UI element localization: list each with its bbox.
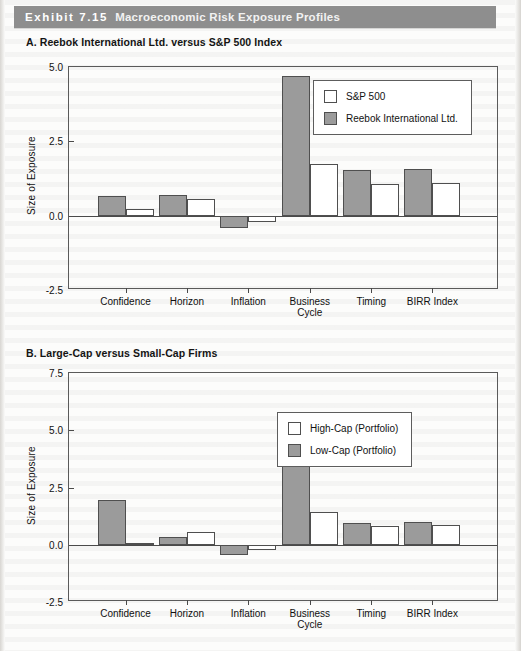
legend-label: High-Cap (Portfolio)	[310, 423, 398, 434]
x-axis-tick-label: Timing	[356, 608, 386, 619]
x-axis-tick-mark	[432, 288, 433, 293]
y-axis-tick-label: 5.0	[49, 425, 69, 436]
legend-item: S&P 500	[324, 88, 458, 105]
legend-swatch	[288, 422, 301, 435]
bar	[371, 184, 399, 216]
bar	[343, 170, 371, 215]
bar	[248, 545, 276, 551]
panel-b-legend: High-Cap (Portfolio)Low-Cap (Portfolio)	[277, 412, 412, 467]
bar	[432, 183, 460, 216]
x-axis-tick-mark	[310, 600, 311, 605]
legend-item: Reebok International Ltd.	[324, 110, 458, 127]
bar	[432, 525, 460, 544]
bar	[159, 537, 187, 545]
y-axis-tick-label: 5.0	[49, 62, 69, 73]
legend-swatch	[288, 444, 301, 457]
y-axis-tick-label: 0.0	[49, 539, 69, 550]
x-axis-tick-label: Inflation	[231, 296, 266, 307]
bar	[404, 169, 432, 216]
bar	[187, 532, 215, 545]
bar	[126, 543, 154, 545]
x-axis-tick-label: Horizon	[170, 608, 204, 619]
legend-item: High-Cap (Portfolio)	[288, 420, 398, 437]
bar	[98, 500, 126, 545]
y-axis-tick-label: -2.5	[46, 285, 69, 296]
legend-label: Reebok International Ltd.	[346, 113, 458, 124]
bar	[98, 196, 126, 216]
x-axis-tick-label: BusinessCycle	[290, 296, 331, 318]
y-axis-tick-label: -2.5	[46, 597, 69, 608]
x-axis-tick-label: BusinessCycle	[290, 608, 331, 630]
y-axis-tick-mark	[69, 216, 74, 217]
x-axis-tick-mark	[126, 600, 127, 605]
bar	[282, 76, 310, 216]
y-axis-tick-mark	[69, 430, 74, 431]
x-axis-tick-mark	[310, 288, 311, 293]
x-axis-tick-mark	[248, 600, 249, 605]
y-axis-tick-mark	[69, 545, 74, 546]
x-axis-tick-label: Horizon	[170, 296, 204, 307]
bar	[310, 164, 338, 215]
y-axis-tick-label: 2.5	[49, 482, 69, 493]
exhibit-banner: Exhibit 7.15 Macroeconomic Risk Exposure…	[14, 6, 496, 28]
y-axis-tick-label: 2.5	[49, 136, 69, 147]
panel-a-legend: S&P 500Reebok International Ltd.	[313, 80, 472, 135]
y-axis-tick-label: 7.5	[49, 368, 69, 379]
panel-a-y-axis-label: Size of Exposure	[26, 136, 37, 215]
bar	[343, 523, 371, 545]
panel-a-caption: A. Reebok International Ltd. versus S&P …	[26, 36, 282, 48]
page-left-edge	[0, 0, 5, 651]
panel-b-caption: B. Large-Cap versus Small-Cap Firms	[26, 347, 217, 359]
x-axis-tick-label: Confidence	[100, 296, 151, 307]
bar	[220, 216, 248, 228]
bar	[404, 522, 432, 545]
bar	[220, 545, 248, 555]
bar	[126, 209, 154, 216]
legend-item: Low-Cap (Portfolio)	[288, 442, 398, 459]
x-axis-tick-mark	[371, 600, 372, 605]
panel-a-plot-area: -2.50.02.55.0ConfidenceHorizonInflationB…	[68, 66, 498, 289]
x-axis-tick-label: Inflation	[231, 608, 266, 619]
legend-swatch	[324, 90, 337, 103]
panel-b-y-axis-label: Size of Exposure	[26, 446, 37, 525]
x-axis-tick-label: Confidence	[100, 608, 151, 619]
bar	[310, 512, 338, 545]
bar	[159, 195, 187, 216]
exhibit-number: Exhibit 7.15	[25, 11, 108, 23]
x-axis-tick-label: Timing	[356, 296, 386, 307]
y-axis-tick-mark	[69, 488, 74, 489]
x-axis-tick-mark	[371, 288, 372, 293]
y-axis-tick-mark	[69, 141, 74, 142]
x-axis-tick-label: BIRR Index	[407, 608, 458, 619]
page-right-edge	[515, 0, 521, 651]
x-axis-tick-mark	[187, 600, 188, 605]
bar	[371, 526, 399, 545]
legend-label: Low-Cap (Portfolio)	[310, 445, 396, 456]
x-axis-tick-mark	[126, 288, 127, 293]
exhibit-title: Macroeconomic Risk Exposure Profiles	[115, 11, 340, 23]
bar	[187, 199, 215, 215]
legend-label: S&P 500	[346, 91, 385, 102]
bar	[248, 216, 276, 222]
x-axis-tick-label: BIRR Index	[407, 296, 458, 307]
x-axis-tick-mark	[187, 288, 188, 293]
zero-baseline	[69, 216, 497, 217]
panel-b-plot-area: -2.50.02.55.07.5ConfidenceHorizonInflati…	[68, 372, 498, 601]
legend-swatch	[324, 112, 337, 125]
x-axis-tick-mark	[248, 288, 249, 293]
x-axis-tick-mark	[432, 600, 433, 605]
y-axis-tick-label: 0.0	[49, 210, 69, 221]
